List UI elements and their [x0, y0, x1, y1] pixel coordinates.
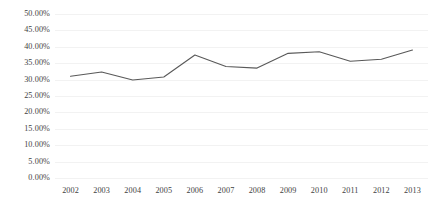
y-axis-tick-label: 30.00% — [0, 75, 50, 83]
x-axis-tick-label: 2008 — [249, 186, 266, 195]
x-axis-tick-label: 2004 — [124, 186, 141, 195]
x-axis-tick-label: 2009 — [280, 186, 297, 195]
x-axis-tick-label: 2002 — [62, 186, 79, 195]
y-axis-tick-label: 35.00% — [0, 59, 50, 67]
line-chart: 0.00%5.00%10.00%15.00%20.00%25.00%30.00%… — [0, 0, 434, 211]
plot-area — [55, 14, 428, 178]
x-axis-tick-label: 2010 — [311, 186, 328, 195]
y-axis-tick-label: 10.00% — [0, 141, 50, 149]
x-axis-tick-label: 2013 — [404, 186, 421, 195]
x-axis-tick-label: 2011 — [342, 186, 358, 195]
gridline — [55, 178, 428, 179]
x-axis-tick-label: 2012 — [373, 186, 390, 195]
series-line-0 — [71, 50, 413, 80]
x-axis-labels: 2002200320042005200620072008200920102011… — [55, 186, 428, 200]
y-axis-tick-label: 50.00% — [0, 10, 50, 18]
y-axis-tick-label: 5.00% — [0, 157, 50, 165]
series-line-group — [55, 14, 428, 178]
x-axis-tick-label: 2006 — [186, 186, 203, 195]
y-axis-tick-label: 25.00% — [0, 92, 50, 100]
y-axis-tick-label: 45.00% — [0, 26, 50, 34]
y-axis-tick-label: 20.00% — [0, 108, 50, 116]
y-axis-tick-label: 40.00% — [0, 43, 50, 51]
x-axis-tick-label: 2005 — [155, 186, 172, 195]
y-axis-labels: 0.00%5.00%10.00%15.00%20.00%25.00%30.00%… — [0, 14, 50, 178]
y-axis-tick-label: 15.00% — [0, 125, 50, 133]
y-axis-tick-label: 0.00% — [0, 174, 50, 182]
x-axis-tick-label: 2003 — [93, 186, 110, 195]
x-axis-tick-label: 2007 — [218, 186, 235, 195]
